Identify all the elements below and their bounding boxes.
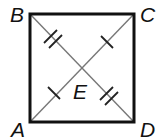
- label-e: E: [73, 80, 88, 103]
- label-b: B: [10, 3, 24, 26]
- square-diagram: B C A D E: [0, 0, 162, 140]
- label-a: A: [9, 118, 25, 140]
- label-d: D: [140, 118, 155, 140]
- label-c: C: [140, 3, 156, 26]
